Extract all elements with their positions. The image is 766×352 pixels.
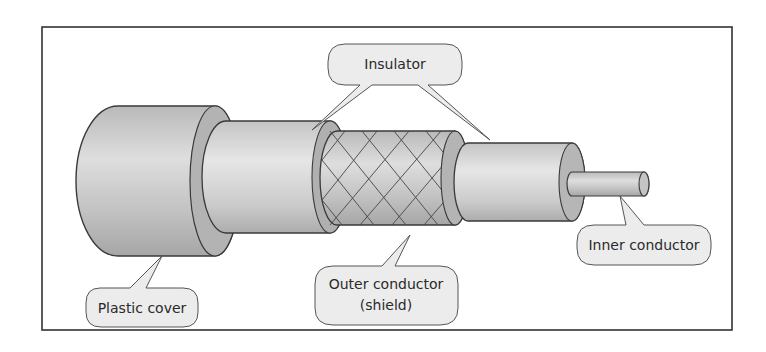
label-inner-conductor: Inner conductor <box>588 237 699 253</box>
label-shield: (shield) <box>360 297 412 313</box>
coaxial-cable-diagram: Insulator Plastic cover Outer conductor … <box>0 0 766 352</box>
label-insulator: Insulator <box>364 56 426 72</box>
label-plastic-cover: Plastic cover <box>98 300 187 316</box>
label-outer-conductor: Outer conductor <box>329 276 444 292</box>
inner-conductor-part <box>567 172 649 196</box>
outer-conductor-shield-part <box>320 131 469 225</box>
inner-insulator-part <box>454 143 585 221</box>
